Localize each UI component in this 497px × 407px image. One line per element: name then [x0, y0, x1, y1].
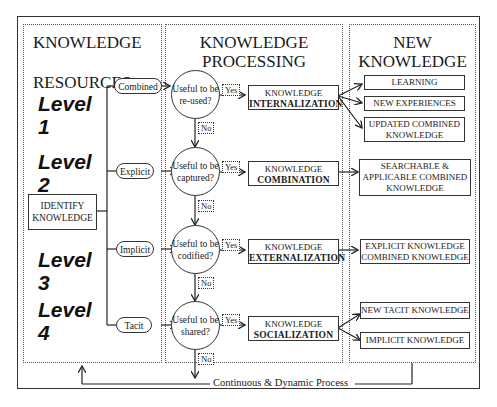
- decision-capture: Useful to becaptured?: [171, 147, 220, 196]
- no-tag: No: [198, 277, 214, 289]
- yes-tag: Yes: [222, 239, 240, 251]
- yes-tag: Yes: [222, 314, 240, 326]
- box-top-text: KNOWLEDGE: [265, 242, 323, 252]
- level-word: Level: [38, 248, 92, 271]
- box-top-text: KNOWLEDGE: [265, 88, 323, 98]
- output-text: COMBINED KNOWLEDGE: [361, 252, 469, 263]
- identify-knowledge-box: IDENTIFY KNOWLEDGE: [28, 194, 97, 230]
- identify-line2: KNOWLEDGE: [29, 212, 96, 224]
- output-text: NEW EXPERIENCES: [373, 98, 456, 109]
- box-top-text: KNOWLEDGE: [265, 319, 323, 329]
- output-text: KNOWLEDGE: [386, 130, 444, 141]
- no-tag: No: [198, 122, 214, 134]
- decision-text: Useful to be: [172, 161, 218, 171]
- level-number: 1: [38, 115, 50, 138]
- level-4-label: Level4: [38, 298, 92, 344]
- level-number: 4: [38, 321, 50, 344]
- level-2-label: Level2: [38, 150, 92, 196]
- level-word: Level: [38, 92, 92, 115]
- output-text: EXPLICIT KNOWLEDGE: [365, 241, 465, 252]
- decision-text: captured?: [177, 173, 214, 183]
- pill-combined: Combined: [114, 78, 162, 94]
- decision-text: shared?: [181, 327, 210, 337]
- level-3-label: Level3: [38, 248, 92, 294]
- pill-implicit: Implicit: [116, 241, 154, 257]
- decision-text: re-used?: [179, 96, 211, 106]
- box-bottom-text: INTERNALIZATION: [249, 99, 343, 109]
- output-text: UPDATED COMBINED: [369, 119, 460, 130]
- no-tag: No: [198, 353, 214, 365]
- processing-title-line2: PROCESSING: [165, 52, 343, 71]
- continuous-process-label: Continuous & Dynamic Process: [210, 377, 351, 388]
- decision-text: Useful to be: [172, 84, 218, 94]
- output-text: SEARCHABLE &: [381, 161, 449, 172]
- box-bottom-text: EXTERNALIZATION: [249, 253, 345, 263]
- new-knowledge-title-line2: KNOWLEDGE: [349, 52, 476, 71]
- decision-text: Useful to be: [172, 239, 218, 249]
- new-knowledge-title-line1: NEW: [349, 33, 476, 52]
- processing-title-line1: KNOWLEDGE: [165, 33, 343, 52]
- knowledge-internalization-box: KNOWLEDGEINTERNALIZATION: [248, 85, 339, 110]
- output-new-experiences: NEW EXPERIENCES: [364, 96, 465, 111]
- decision-text: Useful to be: [172, 315, 218, 325]
- output-new-tacit-knowledge: NEW TACIT KNOWLEDGE: [360, 302, 470, 319]
- level-1-label: Level1: [38, 92, 92, 138]
- output-text: NEW TACIT KNOWLEDGE: [361, 305, 469, 316]
- output-text: APPLICABLE COMBINED: [363, 172, 468, 183]
- decision-reuse: Useful to bere-used?: [171, 70, 220, 119]
- pill-tacit: Tacit: [116, 317, 152, 333]
- output-learning: LEARNING: [364, 75, 465, 90]
- output-searchable-combined-knowledge: SEARCHABLE &APPLICABLE COMBINEDKNOWLEDGE: [359, 159, 471, 196]
- resources-title-line1: KNOWLEDGE: [33, 33, 142, 52]
- knowledge-externalization-box: KNOWLEDGEEXTERNALIZATION: [248, 239, 339, 264]
- output-implicit-knowledge: IMPLICIT KNOWLEDGE: [360, 332, 470, 349]
- output-explicit-combined-knowledge: EXPLICIT KNOWLEDGECOMBINED KNOWLEDGE: [360, 239, 470, 264]
- decision-text: codified?: [178, 251, 213, 261]
- output-updated-combined-knowledge: UPDATED COMBINEDKNOWLEDGE: [364, 117, 465, 142]
- output-text: IMPLICIT KNOWLEDGE: [366, 335, 465, 346]
- output-text: LEARNING: [392, 77, 438, 88]
- knowledge-socialization-box: KNOWLEDGESOCIALIZATION: [248, 316, 339, 341]
- yes-tag: Yes: [222, 161, 240, 173]
- decision-codify: Useful to becodified?: [171, 225, 220, 274]
- level-number: 2: [38, 173, 50, 196]
- knowledge-combination-box: KNOWLEDGECOMBINATION: [248, 161, 339, 186]
- level-number: 3: [38, 271, 50, 294]
- box-bottom-text: COMBINATION: [257, 175, 330, 185]
- identify-line1: IDENTIFY: [29, 200, 96, 212]
- no-tag: No: [198, 200, 214, 212]
- level-word: Level: [38, 298, 92, 321]
- pill-explicit: Explicit: [116, 163, 154, 179]
- yes-tag: Yes: [222, 84, 240, 96]
- level-word: Level: [38, 150, 92, 173]
- decision-share: Useful to beshared?: [171, 301, 220, 350]
- output-text: KNOWLEDGE: [386, 183, 444, 194]
- box-bottom-text: SOCIALIZATION: [254, 330, 334, 340]
- box-top-text: KNOWLEDGE: [265, 164, 323, 174]
